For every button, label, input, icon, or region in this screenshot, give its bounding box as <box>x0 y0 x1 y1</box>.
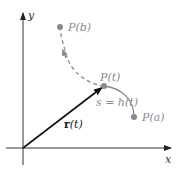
vector-label: r(t) <box>64 118 83 131</box>
label-P-b: P(b) <box>67 21 91 34</box>
label-P-a: P(a) <box>141 111 165 124</box>
point-P-a <box>131 114 137 120</box>
position-vector <box>23 88 102 149</box>
point-P-b <box>57 24 63 30</box>
x-axis-label: x <box>165 153 172 166</box>
arc-length-label: s = h(t) <box>96 96 138 109</box>
label-P-t: P(t) <box>99 71 120 84</box>
vector-curve-diagram: y x P(b) P(t) P(a) s = h(t) r(t) <box>0 0 182 173</box>
dashed-curve-segment <box>60 27 104 86</box>
y-axis-label: y <box>27 9 35 22</box>
